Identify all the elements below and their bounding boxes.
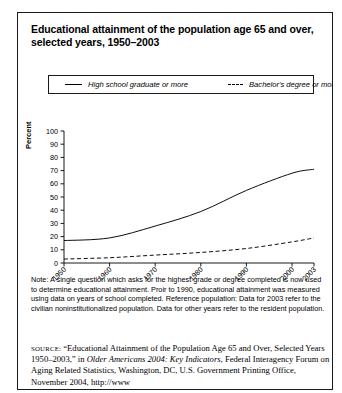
- chart-legend: High school graduate or more Bachelor's …: [48, 75, 314, 94]
- svg-text:0: 0: [54, 259, 58, 268]
- note-text: Note: A single question which asks for t…: [31, 275, 327, 313]
- svg-text:50: 50: [50, 193, 58, 202]
- source-text: SOURCE: “Educational Attainment of the P…: [31, 343, 331, 388]
- svg-text:100: 100: [46, 127, 58, 136]
- svg-text:40: 40: [50, 206, 58, 215]
- svg-text:90: 90: [50, 140, 58, 149]
- legend-item-bachelors: Bachelor's degree or more: [228, 80, 333, 89]
- svg-text:30: 30: [50, 219, 58, 228]
- source-italic-title: Older Americans 2004: Key Indicators: [87, 354, 221, 364]
- figure-frame: Educational attainment of the population…: [17, 12, 333, 390]
- legend-label-bachelors: Bachelor's degree or more: [249, 80, 333, 89]
- svg-text:80: 80: [50, 153, 58, 162]
- page-title: Educational attainment of the population…: [31, 23, 323, 49]
- line-chart: 0102030405060708090100195019601970198019…: [18, 101, 332, 281]
- solid-line-icon: [65, 84, 82, 85]
- svg-text:20: 20: [50, 232, 58, 241]
- chart-plot-area: Percent 01020304050607080901001950196019…: [18, 101, 332, 281]
- dashed-line-icon: [228, 84, 243, 85]
- source-label: SOURCE:: [31, 345, 61, 352]
- svg-text:10: 10: [50, 245, 58, 254]
- svg-text:60: 60: [50, 179, 58, 188]
- legend-item-high-school: High school graduate or more: [65, 80, 188, 89]
- svg-text:70: 70: [50, 166, 58, 175]
- legend-label-high-school: High school graduate or more: [88, 80, 188, 89]
